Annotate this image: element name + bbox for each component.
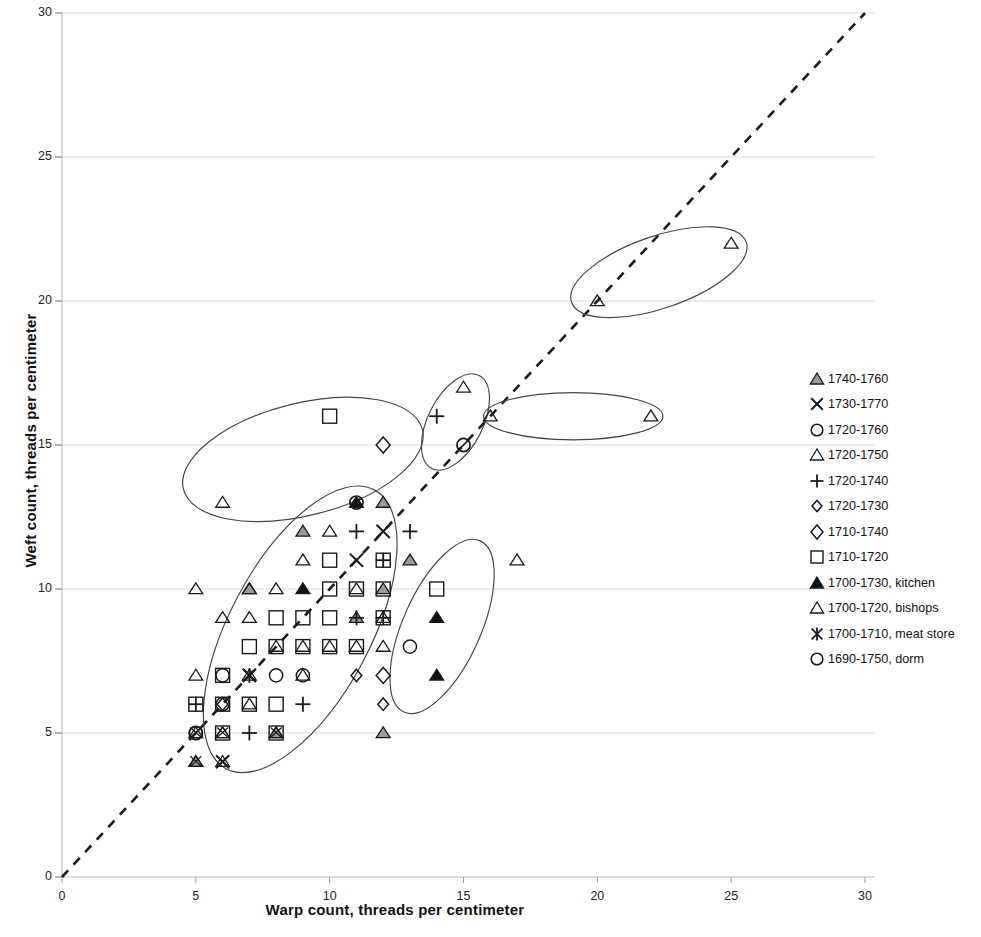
data-point-square [269, 697, 283, 711]
x-tick-label: 10 [310, 889, 350, 903]
data-point-x-cross [350, 554, 363, 567]
data-point-square [242, 640, 256, 654]
y-tick-label: 30 [18, 5, 52, 19]
series-1710-1720 [189, 409, 444, 740]
data-point-triangle-gray [403, 554, 417, 565]
diamond-icon [806, 522, 828, 542]
data-point-triangle-bishops [216, 756, 230, 767]
data-point-triangle-open [269, 640, 283, 651]
legend-item-label: 1730-1770 [828, 397, 888, 411]
data-point-circle [403, 640, 416, 653]
x-tick-label: 30 [845, 889, 885, 903]
data-point-square [269, 611, 283, 625]
data-point-plus [295, 697, 310, 712]
data-point-triangle-open [296, 640, 310, 651]
legend-item-1700-1730-kitchen[interactable]: 1700-1730, kitchen [806, 570, 981, 596]
data-point-triangle-open [242, 612, 256, 623]
legend-item-label: 1720-1740 [828, 474, 888, 488]
circle-dorm-icon [806, 649, 828, 669]
data-point-square [323, 409, 337, 423]
data-point-diamond [376, 667, 390, 683]
legend-item-1720-1730[interactable]: 1720-1730 [806, 494, 981, 520]
plus-icon [806, 471, 828, 491]
data-point-triangle-filled [430, 669, 444, 680]
data-point-triangle-gray [376, 727, 390, 738]
triangle-filled-icon [806, 573, 828, 593]
legend-item-1730-1770[interactable]: 1730-1770 [806, 392, 981, 418]
data-point-triangle-bishops [216, 727, 230, 738]
cluster-ellipse-5 [484, 393, 663, 440]
legend-item-1720-1750[interactable]: 1720-1750 [806, 443, 981, 469]
data-point-triangle-gray [376, 496, 390, 507]
legend-item-label: 1720-1760 [828, 423, 888, 437]
legend-item-1740-1760[interactable]: 1740-1760 [806, 366, 981, 392]
data-point-triangle-open [510, 554, 524, 565]
legend-item-1690-1750-dorm[interactable]: 1690-1750, dorm [806, 647, 981, 673]
legend-item-1720-1740[interactable]: 1720-1740 [806, 468, 981, 494]
data-point-plus [402, 524, 417, 539]
x-tick-label: 20 [577, 889, 617, 903]
diamond-small-icon [806, 496, 828, 516]
data-point-x-cross [377, 525, 390, 538]
legend-item-1710-1740[interactable]: 1710-1740 [806, 519, 981, 545]
x-axis-title: Warp count, threads per centimeter [0, 901, 790, 918]
data-point-triangle-open [323, 525, 337, 536]
data-point-plus [242, 726, 257, 741]
data-point-circle [216, 669, 229, 682]
data-point-diamond-small [378, 698, 389, 710]
data-point-square [323, 611, 337, 625]
data-point-triangle-open [296, 554, 310, 565]
square-icon [806, 547, 828, 567]
y-tick-label: 15 [18, 437, 52, 451]
legend-item-label: 1710-1720 [828, 550, 888, 564]
data-point-triangle-open [350, 640, 364, 651]
legend-item-1700-1710-meat-store[interactable]: 1700-1710, meat store [806, 621, 981, 647]
legend-item-label: 1700-1720, bishops [828, 601, 939, 615]
data-point-triangle-open [269, 583, 283, 594]
data-point-triangle-filled [430, 612, 444, 623]
data-point-circle [270, 669, 283, 682]
data-point-triangle-gray [296, 525, 310, 536]
y-tick-label: 5 [18, 725, 52, 739]
legend-item-1710-1720[interactable]: 1710-1720 [806, 545, 981, 571]
data-point-triangle-filled [296, 583, 310, 594]
triangle-bishops-icon [806, 598, 828, 618]
cluster-ellipse-1 [170, 375, 436, 544]
series-1720-1740 [188, 409, 444, 741]
data-point-triangle-gray [376, 583, 390, 594]
scatter-plot-figure: Warp count, threads per centimeter Weft … [0, 0, 981, 937]
data-point-triangle-open [724, 237, 738, 248]
data-point-plus [188, 697, 203, 712]
data-point-triangle-open [644, 410, 658, 421]
circle-icon [806, 420, 828, 440]
data-point-triangle-open [323, 640, 337, 651]
legend: 1740-17601730-17701720-17601720-17501720… [806, 366, 981, 672]
data-point-square [323, 553, 337, 567]
y-tick-label: 25 [18, 149, 52, 163]
data-point-triangle-open [350, 583, 364, 594]
data-point-plus [349, 524, 364, 539]
triangle-gray-icon [806, 369, 828, 389]
y-tick-label: 0 [18, 869, 52, 883]
data-point-triangle-open [189, 669, 203, 680]
star-cross-icon [806, 624, 828, 644]
legend-item-label: 1690-1750, dorm [828, 652, 924, 666]
legend-item-1700-1720-bishops[interactable]: 1700-1720, bishops [806, 596, 981, 622]
x-tick-label: 5 [176, 889, 216, 903]
legend-item-1720-1760[interactable]: 1720-1760 [806, 417, 981, 443]
series-1720-1750 [189, 237, 738, 737]
y-tick-label: 10 [18, 581, 52, 595]
x-cross-icon [806, 394, 828, 414]
data-point-plus [429, 409, 444, 424]
y-tick-label: 20 [18, 293, 52, 307]
legend-item-label: 1740-1760 [828, 372, 888, 386]
data-point-triangle-open [376, 640, 390, 651]
cluster-ellipse-6 [560, 208, 758, 336]
series-1720-1760 [189, 640, 416, 740]
legend-item-label: 1720-1730 [828, 499, 888, 513]
data-point-plus [376, 553, 391, 568]
legend-item-label: 1700-1710, meat store [828, 627, 955, 641]
data-point-triangle-open [216, 496, 230, 507]
series-1700-1730-kitchen [296, 496, 444, 680]
data-point-triangle-open [189, 583, 203, 594]
